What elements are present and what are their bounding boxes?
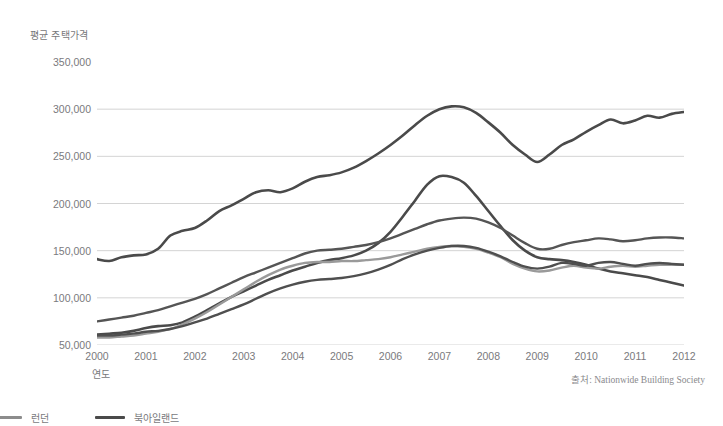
x-tick-label: 2009 (526, 350, 549, 362)
legend-swatch-icon (0, 416, 22, 419)
x-tick-label: 2004 (281, 350, 304, 362)
x-tick-label: 2003 (232, 350, 255, 362)
legend-label: 북아일랜드 (134, 410, 179, 425)
x-tick-label: 2006 (379, 350, 402, 362)
y-tick-label: 50,000 (31, 339, 91, 351)
legend-label: 런던 (31, 410, 49, 425)
series-line (97, 246, 684, 338)
chart-container: 평균 주택가격 350,000300,000250,000200,000150,… (0, 0, 723, 426)
legend-item[interactable]: 북아일랜드 (95, 410, 179, 425)
series-line (97, 176, 684, 335)
x-tick-label: 2011 (624, 350, 647, 362)
x-tick-label: 2012 (672, 350, 695, 362)
x-tick-label: 2007 (428, 350, 451, 362)
x-tick-label: 2000 (85, 350, 108, 362)
legend-swatch-icon (95, 416, 125, 419)
y-tick-label: 350,000 (31, 56, 91, 68)
y-axis-tick-labels: 350,000300,000250,000200,000150,000100,0… (31, 62, 91, 345)
y-tick-label: 150,000 (31, 245, 91, 257)
y-tick-label: 100,000 (31, 292, 91, 304)
source-note: 출처: Nationwide Building Society (571, 372, 705, 386)
y-axis-title: 평균 주택가격 (30, 27, 88, 42)
x-tick-label: 2008 (477, 350, 500, 362)
x-tick-label: 2005 (330, 350, 353, 362)
plot-area (97, 62, 684, 345)
y-tick-label: 200,000 (31, 198, 91, 210)
x-axis-tick-labels: 2000200120022003200420052006200720082009… (97, 350, 684, 366)
series-lines (97, 62, 684, 345)
chart-legend: 런던북아일랜드 (0, 409, 225, 425)
x-tick-label: 2001 (134, 350, 157, 362)
y-tick-label: 300,000 (31, 103, 91, 115)
legend-item[interactable]: 런던 (0, 410, 49, 425)
x-tick-label: 2010 (574, 350, 597, 362)
x-tick-label: 2002 (183, 350, 206, 362)
y-tick-label: 250,000 (31, 150, 91, 162)
x-axis-title: 연도 (92, 366, 110, 381)
